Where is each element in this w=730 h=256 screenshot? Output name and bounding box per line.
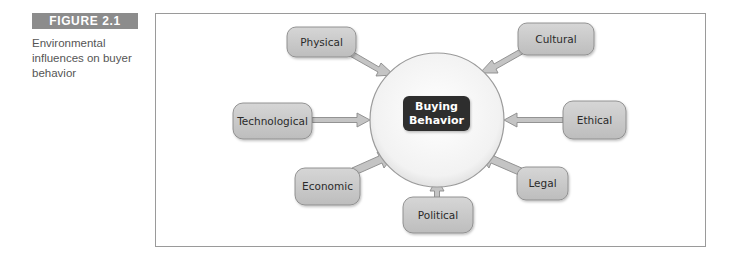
center-label-line2: Behavior bbox=[409, 114, 465, 127]
influence-diagram: Buying Behavior Physical Cultural Techno… bbox=[0, 0, 730, 256]
node-label-cultural: Cultural bbox=[535, 33, 576, 45]
node-legal: Legal bbox=[517, 167, 568, 200]
node-economic: Economic bbox=[295, 168, 360, 205]
node-label-physical: Physical bbox=[300, 36, 343, 48]
node-political: Political bbox=[403, 197, 473, 233]
arrow-ethical-icon bbox=[504, 113, 563, 127]
arrow-technological-icon bbox=[312, 113, 370, 127]
node-label-political: Political bbox=[418, 209, 458, 221]
node-label-ethical: Ethical bbox=[577, 114, 612, 126]
node-physical: Physical bbox=[287, 27, 356, 57]
node-technological: Technological bbox=[233, 103, 312, 139]
node-label-legal: Legal bbox=[528, 177, 556, 189]
center-label-line1: Buying bbox=[415, 100, 458, 113]
node-cultural: Cultural bbox=[518, 23, 594, 55]
arrow-physical-icon bbox=[348, 50, 394, 76]
node-label-technological: Technological bbox=[236, 115, 308, 127]
node-ethical: Ethical bbox=[563, 101, 626, 139]
node-label-economic: Economic bbox=[302, 180, 353, 192]
